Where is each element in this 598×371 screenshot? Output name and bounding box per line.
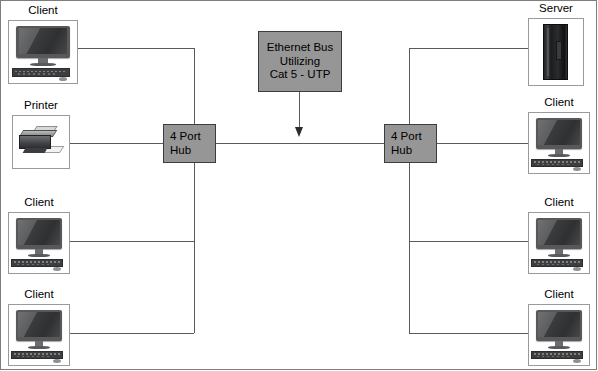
right-client-middle[interactable]: Client	[528, 196, 590, 274]
left-client-middle[interactable]: Client	[8, 196, 70, 274]
server-tower-icon	[529, 19, 583, 85]
right-client-middle-label: Client	[528, 196, 590, 209]
right-client-bottom-box	[528, 304, 590, 366]
left-printer-label: Printer	[12, 99, 70, 112]
right-client-upper[interactable]: Client	[528, 96, 590, 174]
left-client-bottom-box	[8, 304, 70, 366]
ethernet-bus-caption: Ethernet Bus Utilizing Cat 5 - UTP	[258, 31, 342, 92]
left-client-top[interactable]: Client	[8, 4, 78, 84]
bus-caption-line-2: Utilizing	[280, 55, 320, 69]
right-client-upper-label: Client	[528, 96, 590, 109]
left-hub-line-2: Hub	[170, 144, 191, 158]
desktop-computer-icon	[529, 113, 589, 173]
right-hub-line-2: Hub	[391, 144, 412, 158]
printer-icon	[13, 116, 69, 168]
left-client-bottom-label: Client	[8, 288, 70, 301]
left-printer-box	[12, 115, 70, 169]
left-client-top-box	[8, 20, 78, 84]
right-client-bottom[interactable]: Client	[528, 288, 590, 366]
right-server-label: Server	[528, 2, 584, 15]
left-client-bottom[interactable]: Client	[8, 288, 70, 366]
left-printer[interactable]: Printer	[12, 99, 70, 169]
left-client-middle-label: Client	[8, 196, 70, 209]
desktop-computer-icon	[9, 305, 69, 365]
right-hub-line-1: 4 Port	[391, 130, 422, 144]
right-server[interactable]: Server	[528, 2, 584, 86]
left-client-top-label: Client	[8, 4, 78, 17]
left-client-middle-box	[8, 212, 70, 274]
bus-caption-line-3: Cat 5 - UTP	[270, 68, 331, 82]
desktop-computer-icon	[529, 305, 589, 365]
bus-arrow-head	[295, 127, 303, 137]
desktop-computer-icon	[9, 21, 77, 83]
right-server-box	[528, 18, 584, 86]
right-client-middle-box	[528, 212, 590, 274]
bus-caption-line-1: Ethernet Bus	[267, 41, 333, 55]
right-client-bottom-label: Client	[528, 288, 590, 301]
left-hub[interactable]: 4 Port Hub	[163, 124, 216, 163]
network-topology-diagram: Ethernet Bus Utilizing Cat 5 - UTP 4 Por…	[0, 0, 598, 371]
right-client-upper-box	[528, 112, 590, 174]
left-hub-line-1: 4 Port	[170, 130, 201, 144]
desktop-computer-icon	[529, 213, 589, 273]
desktop-computer-icon	[9, 213, 69, 273]
right-hub[interactable]: 4 Port Hub	[384, 124, 437, 163]
